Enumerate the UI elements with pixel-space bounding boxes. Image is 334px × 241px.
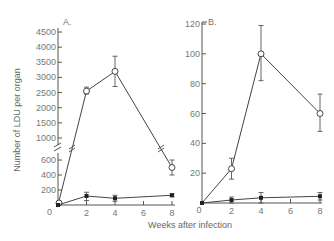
y-axis-title: Number of LDU per organ xyxy=(12,68,22,172)
x-tick-label: 6 xyxy=(288,206,293,216)
filled-square-marker xyxy=(259,196,263,200)
open-circle-marker xyxy=(112,68,118,74)
y-tick-label: 2000 xyxy=(36,103,56,113)
y-tick-label: 1500 xyxy=(36,118,56,128)
filled-square-marker xyxy=(56,203,60,207)
panel-b-origin-label: 0 xyxy=(196,205,201,215)
y-tick-label: 100 xyxy=(185,49,200,59)
y-tick-label: 120 xyxy=(185,19,200,29)
y-tick-label: 600 xyxy=(41,155,56,165)
filled-square-marker xyxy=(200,201,204,205)
x-tick-label: 2 xyxy=(84,208,89,218)
x-tick-label: 2 xyxy=(229,206,234,216)
x-tick-label: 8 xyxy=(169,208,174,218)
y-tick-label: 200 xyxy=(41,185,56,195)
x-tick-label: 4 xyxy=(258,206,263,216)
y-tick-label: 60 xyxy=(190,109,200,119)
y-tick-label: 40 xyxy=(190,138,200,148)
panel-a-origin-label: 0 xyxy=(47,207,52,217)
y-tick-label: 4500 xyxy=(36,27,56,37)
open-circle-marker xyxy=(258,51,264,57)
panel-b: B. 0 204060801001202468 xyxy=(185,17,323,216)
filled-square-marker xyxy=(85,194,89,198)
panel-b-label: B. xyxy=(208,17,217,27)
panel-a-label: A. xyxy=(63,17,72,27)
figure: Number of LDU per organ Weeks after infe… xyxy=(0,0,334,241)
y-tick-label: 3500 xyxy=(36,57,56,67)
filled-square-marker xyxy=(318,194,322,198)
y-tick-label: 80 xyxy=(190,79,200,89)
y-tick-label: 400 xyxy=(41,170,56,180)
x-axis-title: Weeks after infection xyxy=(148,220,232,230)
open-circle-marker xyxy=(229,166,235,172)
y-tick-label: 2500 xyxy=(36,88,56,98)
y-tick-label: 4000 xyxy=(36,42,56,52)
x-tick-label: 8 xyxy=(317,206,322,216)
open-circle-marker xyxy=(84,88,90,94)
x-tick-label: 6 xyxy=(141,208,146,218)
y-tick-label: 1000 xyxy=(36,133,56,143)
filled-square-marker xyxy=(230,198,234,202)
x-tick-label: 4 xyxy=(112,208,117,218)
open-circle-marker xyxy=(169,165,175,171)
series-line-open-circle xyxy=(58,71,172,205)
panel-a: A. 0 10001500200025003000350040004500200… xyxy=(36,17,175,218)
filled-square-marker xyxy=(170,193,174,197)
y-tick-label: 20 xyxy=(190,168,200,178)
open-circle-marker xyxy=(317,111,323,117)
filled-square-marker xyxy=(113,196,117,200)
y-tick-label: 3000 xyxy=(36,72,56,82)
